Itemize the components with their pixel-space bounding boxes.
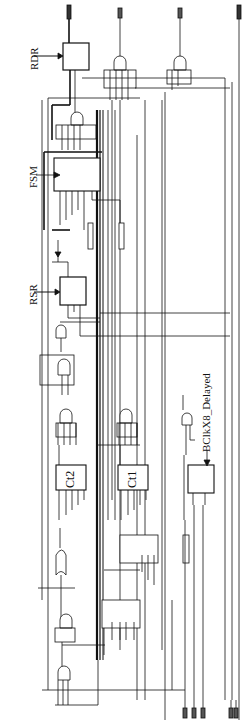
ct2-label: Ct2 [63,471,78,488]
and-gate-ct2 [56,409,76,465]
rdr-block [34,43,89,70]
bottom-input-pins [183,505,238,718]
and-gate-rsr-1 [56,322,100,352]
ct1-label: Ct1 [125,471,140,488]
top-output-pins [67,5,241,720]
flipflop-block [184,450,214,520]
and-gate-rsr-2 [40,355,74,395]
circuit-schematic [0,0,244,720]
bus-label-box [183,535,189,563]
mux-block-2 [102,600,140,655]
rdr-label: RDR [28,47,40,70]
fsm-label: FSM [27,166,39,188]
and-gate-top-2 [167,56,191,90]
and-gate-fsm-top [56,112,96,150]
bclk-label: BClkX8_Delayed [200,373,212,452]
fsm-block [36,152,124,249]
or-gate [38,528,75,620]
and-gate-clk [182,395,195,455]
rsr-label: RSR [27,284,39,305]
buffer-triangle [52,240,68,262]
rsr-block [34,262,230,336]
mux-block-1 [104,535,158,585]
